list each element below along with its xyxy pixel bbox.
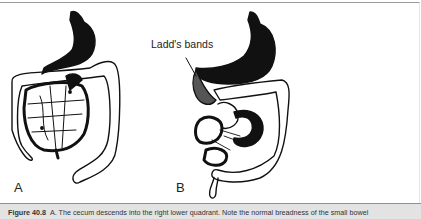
caption-body: A. The cecum descends into the right low… (50, 208, 368, 217)
panel-a-illustration (12, 11, 120, 183)
caption-line: Figure 40.8 A. The cecum descends into t… (8, 208, 368, 217)
ladds-bands-callout: Ladd's bands (151, 38, 213, 50)
figure-caption: Figure 40.8 A. The cecum descends into t… (0, 203, 421, 219)
anatomy-diagram (0, 0, 421, 203)
panel-label-b: B (176, 180, 185, 195)
figure-number: Figure 40.8 (8, 208, 46, 217)
panel-label-a: A (14, 180, 23, 195)
